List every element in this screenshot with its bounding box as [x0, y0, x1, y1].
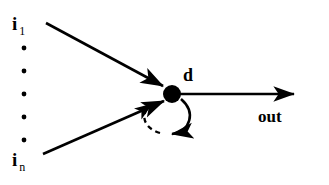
- central-node: [163, 85, 181, 103]
- input-arrow-first: [46, 23, 163, 86]
- input-label-first-subscript: 1: [19, 24, 25, 38]
- input-ellipsis-dots: [22, 46, 27, 143]
- input-label-last-subscript: n: [19, 160, 25, 174]
- input-label-last: in: [12, 150, 23, 169]
- input-label-first-main: i: [12, 13, 17, 34]
- output-label: out: [258, 108, 282, 125]
- diagram-vector-layer: [0, 0, 329, 185]
- self-loop-solid-arc: [172, 99, 190, 134]
- input-label-first: i1: [12, 14, 23, 33]
- node-label-d: d: [183, 66, 193, 84]
- input-label-last-main: i: [12, 149, 17, 170]
- diagram-canvas: i1 in d out: [0, 0, 329, 185]
